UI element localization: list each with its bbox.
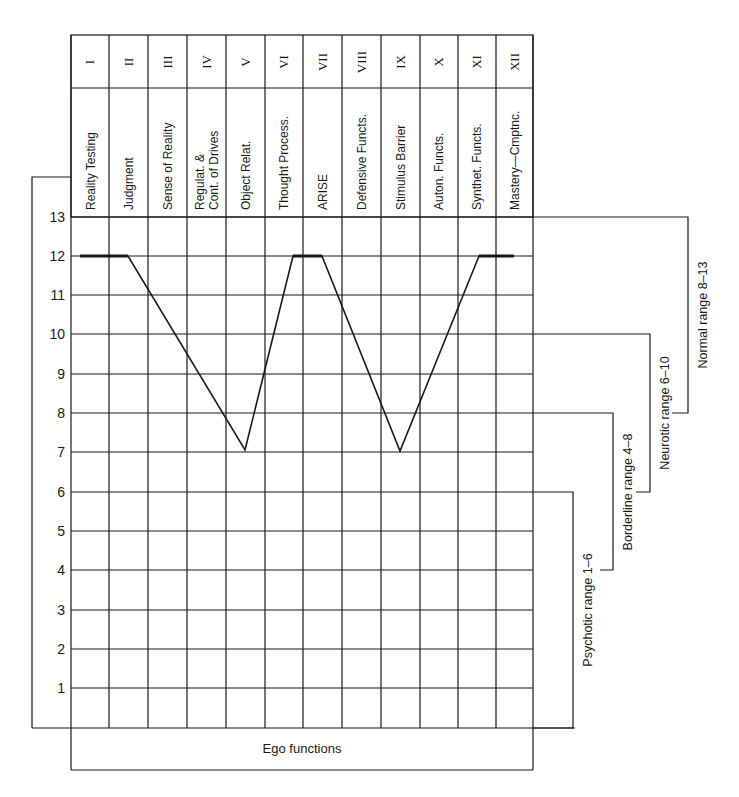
y-tick-1: 1 — [57, 680, 65, 696]
label-regulat: Regulat. & — [193, 154, 207, 210]
y-axis-ticks: 13 12 11 10 9 8 7 6 5 4 3 2 1 — [49, 209, 65, 696]
y-tick-10: 10 — [49, 326, 65, 342]
label-cont-of-drives: Cont. of Drives — [207, 131, 221, 210]
numeral-2: II — [121, 58, 136, 67]
numeral-4: IV — [199, 55, 214, 69]
y-tick-3: 3 — [57, 602, 65, 618]
label-arise: ARISE — [316, 174, 330, 210]
x-axis-label: Ego functions — [263, 741, 342, 756]
psychotic-range-bracket — [533, 492, 573, 728]
y-tick-6: 6 — [57, 484, 65, 500]
numeral-9: IX — [393, 55, 408, 69]
y-tick-5: 5 — [57, 523, 65, 539]
numeral-3: III — [160, 56, 175, 69]
numeral-11: XI — [469, 55, 484, 69]
label-stimulus-barrier: Stimulus Barrier — [394, 125, 408, 210]
ego-function-profile-chart: I II III IV V VI VII VIII IX X XI XII Re… — [0, 0, 739, 797]
profile-series — [80, 256, 514, 451]
label-reality-testing: Reality Testing — [84, 132, 98, 210]
label-thought-process: Thought Process. — [277, 116, 291, 210]
numeral-6: VI — [276, 55, 291, 69]
y-tick-8: 8 — [57, 405, 65, 421]
numeral-12: XII — [507, 53, 522, 71]
label-sense-of-reality: Sense of Reality — [161, 123, 175, 210]
label-auton-functs: Auton. Functs. — [432, 133, 446, 210]
y-tick-11: 11 — [50, 287, 65, 303]
column-lines — [71, 35, 533, 770]
header-table-border — [71, 35, 533, 217]
neurotic-range-label: Neurotic range 6–10 — [658, 356, 672, 469]
y-tick-4: 4 — [57, 562, 65, 578]
numeral-5: V — [238, 57, 253, 67]
y-tick-13: 13 — [49, 209, 65, 225]
label-synthet-functs: Synthet. Functs. — [470, 123, 484, 210]
label-object-relat: Object Relat. — [239, 141, 253, 210]
borderline-range-label: Borderline range 4–8 — [621, 434, 635, 551]
numeral-1: I — [82, 60, 97, 64]
profile-line — [80, 256, 514, 451]
range-labels: Normal range 8–13 Neurotic range 6–10 Bo… — [581, 261, 710, 666]
label-mastery-cmptnc: Mastery—Cmptnc. — [508, 111, 522, 210]
numeral-8: VIII — [354, 51, 369, 73]
psychotic-range-label: Psychotic range 1–6 — [581, 553, 595, 666]
normal-range-label: Normal range 8–13 — [696, 261, 710, 368]
y-tick-7: 7 — [57, 444, 65, 460]
label-judgment: Judgment — [122, 157, 136, 210]
y-tick-12: 12 — [49, 248, 65, 264]
y-tick-9: 9 — [57, 366, 65, 382]
numeral-7: VII — [315, 53, 330, 71]
y-tick-2: 2 — [57, 641, 65, 657]
numeral-10: X — [431, 57, 446, 67]
label-defensive-functs: Defensive Functs. — [355, 114, 369, 210]
